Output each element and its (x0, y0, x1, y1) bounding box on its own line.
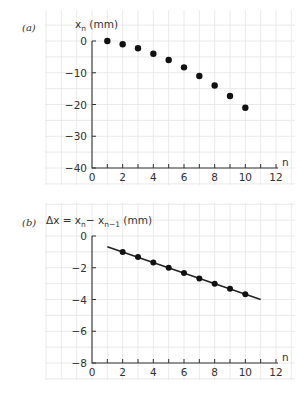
data-point (242, 291, 248, 297)
y-tick-label: −40 (65, 162, 87, 174)
data-point (119, 41, 125, 47)
x-tick-label: 0 (89, 366, 96, 378)
data-point (150, 51, 156, 57)
data-point (227, 286, 233, 292)
y-tick-label: −4 (72, 294, 88, 306)
y-tick-label: −20 (65, 99, 87, 111)
data-point (120, 249, 126, 255)
data-point (196, 73, 202, 79)
data-point (135, 254, 141, 260)
panel-label: (b) (22, 217, 36, 228)
data-point (181, 64, 187, 70)
data-point (150, 260, 156, 266)
panel-b: 0−2−4−6−8024681012n(b)Δx = xn− xn−1 (mm) (22, 203, 295, 380)
x-tick-label: 10 (239, 366, 252, 378)
x-tick-label: 0 (89, 171, 96, 183)
y-tick-label: −8 (72, 357, 87, 369)
data-point (196, 275, 202, 281)
data-point (165, 57, 171, 63)
data-point (227, 93, 233, 99)
data-point (212, 281, 218, 287)
y-axis-label: xn (mm) (75, 18, 118, 33)
y-tick-label: 0 (80, 35, 87, 47)
y-tick-label: −2 (72, 262, 87, 274)
y-axis-label: Δx = xn− xn−1 (mm) (46, 214, 152, 229)
x-axis-label: n (282, 156, 289, 168)
panel-label: (a) (22, 22, 36, 33)
x-tick-label: 4 (150, 171, 157, 183)
data-point (135, 45, 141, 51)
data-point (181, 270, 187, 276)
y-tick-label: −10 (65, 67, 87, 79)
y-tick-label: −6 (72, 325, 88, 337)
x-tick-label: 2 (119, 171, 126, 183)
x-tick-label: 6 (181, 366, 188, 378)
x-tick-label: 4 (150, 366, 157, 378)
x-axis-label: n (282, 351, 289, 363)
x-tick-label: 2 (119, 366, 126, 378)
data-point (242, 104, 248, 110)
x-tick-label: 8 (211, 171, 218, 183)
figure: 0−10−20−30−40024681012n(a)xn (mm) 0−2−4−… (0, 0, 304, 394)
x-tick-label: 10 (239, 171, 252, 183)
x-tick-label: 8 (211, 366, 218, 378)
x-tick-label: 6 (181, 171, 188, 183)
panel-a: 0−10−20−30−40024681012n(a)xn (mm) (22, 10, 295, 185)
data-point (166, 265, 172, 271)
data-point (104, 38, 110, 44)
x-tick-label: 12 (269, 366, 282, 378)
y-tick-label: −30 (65, 130, 87, 142)
data-point (211, 82, 217, 88)
y-tick-label: 0 (80, 230, 87, 242)
x-tick-label: 12 (269, 171, 282, 183)
